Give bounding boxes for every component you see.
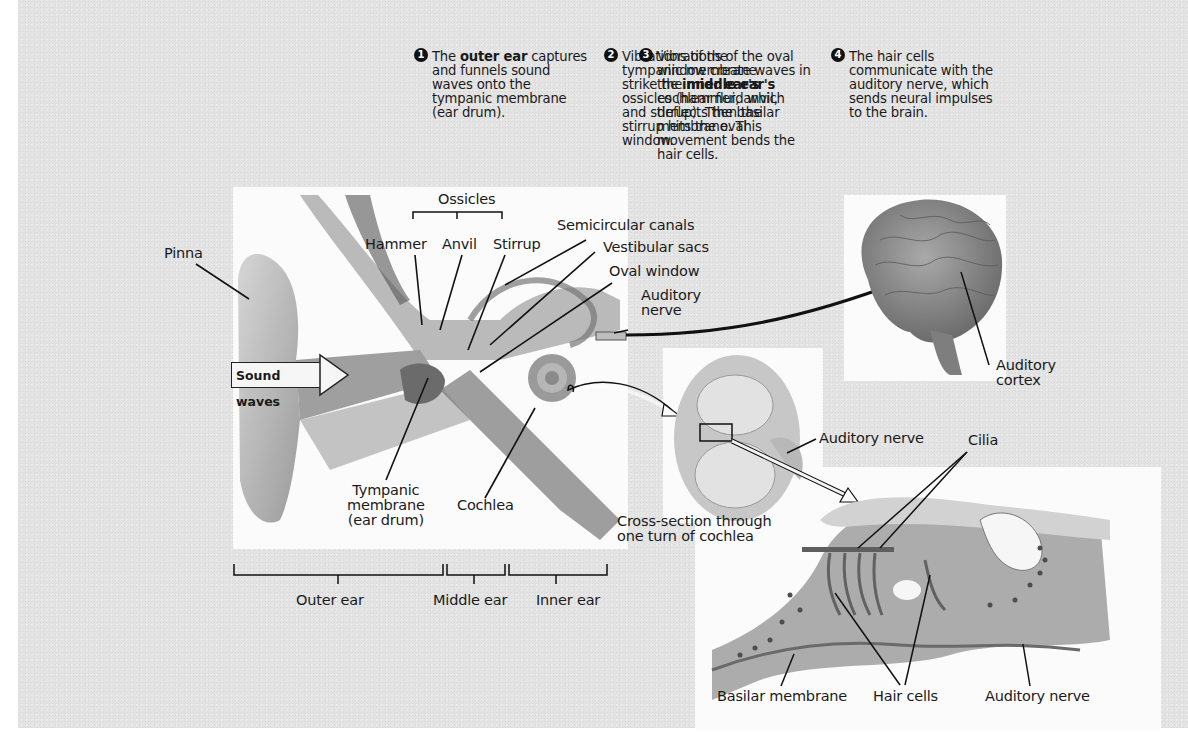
label-cochlea: Cochlea [457, 498, 514, 513]
label-tympanic-membrane: Tympanic membrane (ear drum) [347, 483, 425, 528]
label-auditory-nerve-cross-section: Auditory nerve [819, 431, 924, 446]
label-auditory-nerve-detail: Auditory nerve [985, 689, 1090, 704]
label-inner-ear: Inner ear [536, 593, 600, 608]
label-auditory-cortex: Auditory cortex [996, 358, 1056, 388]
label-cross-section-caption: Cross-section through one turn of cochle… [617, 514, 772, 544]
label-middle-ear: Middle ear [433, 593, 507, 608]
label-outer-ear: Outer ear [296, 593, 364, 608]
label-hair-cells: Hair cells [873, 689, 938, 704]
label-basilar-membrane: Basilar membrane [717, 689, 847, 704]
label-cilia: Cilia [968, 433, 998, 448]
